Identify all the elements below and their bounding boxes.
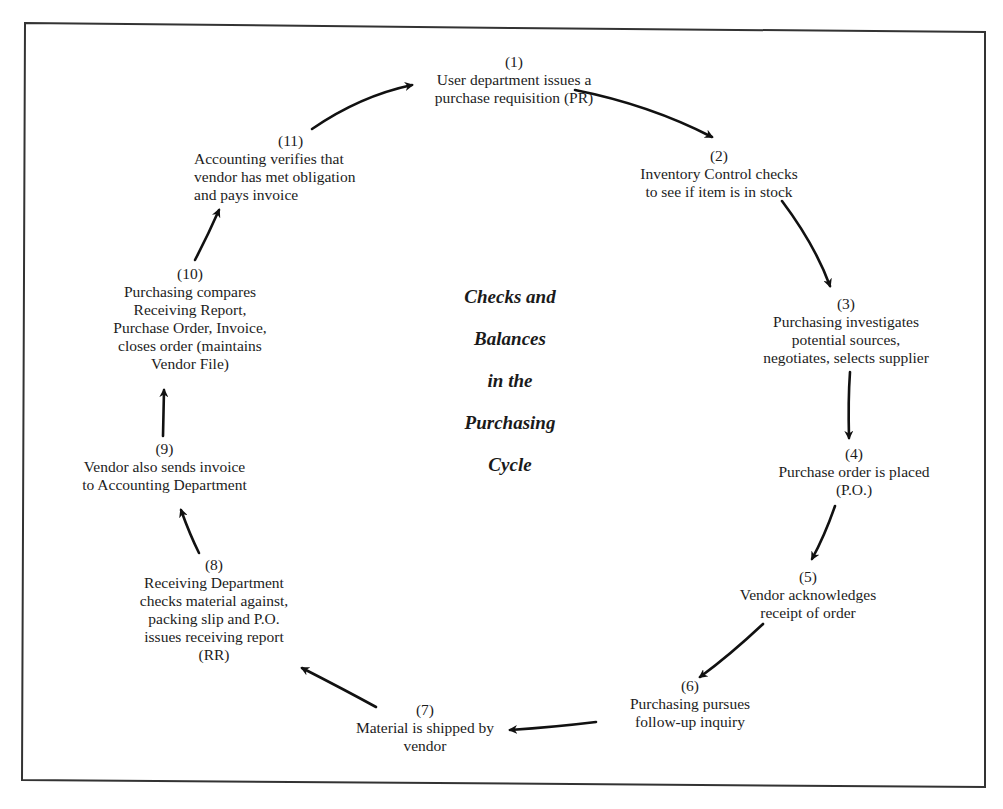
step-11-line-2: vendor has met obligation [194, 168, 404, 186]
step-10-line-4: closes order (maintains [90, 337, 290, 355]
step-10-line-1: Purchasing compares [90, 283, 290, 301]
step-7: (7) Material is shipped by vendor [330, 701, 520, 755]
arrow-5-to-6 [700, 624, 763, 677]
arrow-10-to-11 [195, 210, 219, 260]
arrow-4-to-5 [812, 506, 835, 559]
step-8-number: (8) [114, 556, 314, 574]
step-7-line-1: Material is shipped by [330, 719, 520, 737]
step-3-line-1: Purchasing investigates [726, 313, 966, 331]
arrow-3-to-4 [849, 372, 850, 438]
step-8-line-4: issues receiving report [114, 628, 314, 646]
step-6-number: (6) [590, 677, 790, 695]
step-3-number: (3) [726, 295, 966, 313]
step-1-line-2: purchase requisition (PR) [394, 89, 634, 107]
step-11: (11) Accounting verifies that vendor has… [194, 132, 404, 204]
arrow-9-to-10 [163, 390, 164, 436]
arrow-8-to-9 [181, 510, 199, 553]
step-8-line-1: Receiving Department [114, 574, 314, 592]
step-11-number: (11) [194, 132, 404, 150]
step-4-number: (4) [734, 445, 974, 463]
step-10-line-5: Vendor File) [90, 355, 290, 373]
step-10-number: (10) [90, 265, 290, 283]
step-4-line-1: Purchase order is placed [734, 463, 974, 481]
step-8-line-3: packing slip and P.O. [114, 610, 314, 628]
title-line-1: Checks and [420, 282, 600, 324]
step-8-line-5: (RR) [114, 646, 314, 664]
step-5-number: (5) [698, 568, 918, 586]
step-3: (3) Purchasing investigates potential so… [726, 295, 966, 367]
arrow-6-to-7 [510, 722, 596, 730]
step-2: (2) Inventory Control checks to see if i… [594, 147, 844, 201]
step-8-line-2: checks material against, [114, 592, 314, 610]
diagram-title: Checks and Balances in the Purchasing Cy… [420, 282, 600, 492]
step-2-line-1: Inventory Control checks [594, 165, 844, 183]
title-line-3: in the [420, 366, 600, 408]
step-7-number: (7) [330, 701, 520, 719]
step-2-number: (2) [594, 147, 844, 165]
step-3-line-3: negotiates, selects supplier [726, 349, 966, 367]
step-4-line-2: (P.O.) [734, 481, 974, 499]
step-9-line-2: to Accounting Department [62, 476, 267, 494]
step-3-line-2: potential sources, [726, 331, 966, 349]
arrow-2-to-3 [782, 201, 830, 286]
step-5-line-1: Vendor acknowledges [698, 586, 918, 604]
step-6-line-1: Purchasing pursues [590, 695, 790, 713]
step-7-line-2: vendor [330, 737, 520, 755]
step-2-line-2: to see if item is in stock [594, 183, 844, 201]
step-6-line-2: follow-up inquiry [590, 713, 790, 731]
step-9-line-1: Vendor also sends invoice [62, 458, 267, 476]
title-line-2: Balances [420, 324, 600, 366]
step-5: (5) Vendor acknowledges receipt of order [698, 568, 918, 622]
step-10-line-3: Purchase Order, Invoice, [90, 319, 290, 337]
step-1-number: (1) [394, 53, 634, 71]
step-11-line-3: and pays invoice [194, 186, 404, 204]
step-9-number: (9) [62, 440, 267, 458]
step-10-line-2: Receiving Report, [90, 301, 290, 319]
step-6: (6) Purchasing pursues follow-up inquiry [590, 677, 790, 731]
step-1: (1) User department issues a purchase re… [394, 53, 634, 107]
step-10: (10) Purchasing compares Receiving Repor… [90, 265, 290, 373]
title-line-4: Purchasing [420, 408, 600, 450]
title-line-5: Cycle [420, 450, 600, 492]
step-11-line-1: Accounting verifies that [194, 150, 404, 168]
step-9: (9) Vendor also sends invoice to Account… [62, 440, 267, 494]
step-5-line-2: receipt of order [698, 604, 918, 622]
step-1-line-1: User department issues a [394, 71, 634, 89]
step-8: (8) Receiving Department checks material… [114, 556, 314, 664]
step-4: (4) Purchase order is placed (P.O.) [734, 445, 974, 499]
